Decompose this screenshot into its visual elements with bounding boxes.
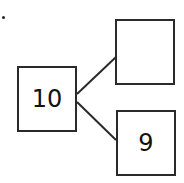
- part-box-top[interactable]: [115, 19, 175, 85]
- whole-value: 10: [32, 85, 63, 113]
- part-value-bottom: 9: [138, 129, 153, 157]
- connector-top: [77, 57, 116, 94]
- whole-box: 10: [17, 66, 77, 132]
- part-box-bottom: 9: [116, 110, 176, 176]
- connector-bottom: [77, 102, 116, 140]
